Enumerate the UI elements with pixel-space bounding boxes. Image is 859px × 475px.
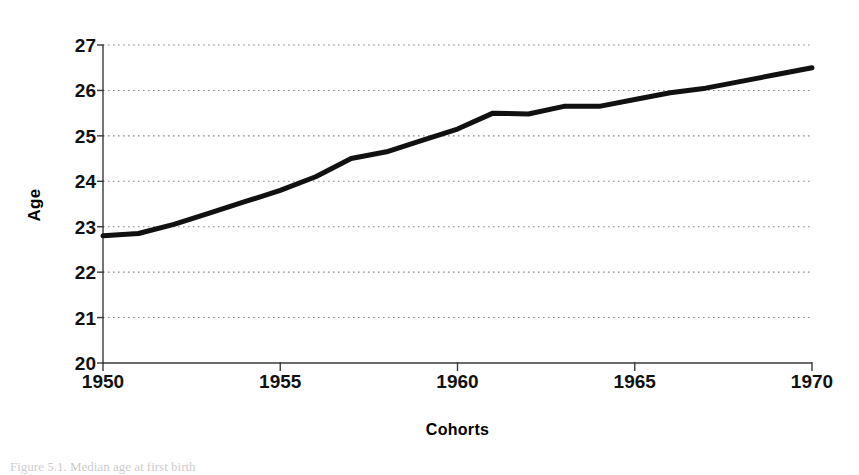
x-axis-title: Cohorts xyxy=(103,421,812,439)
x-tick-label: 1970 xyxy=(767,372,857,391)
data-series xyxy=(103,68,812,236)
x-tick-label: 1960 xyxy=(413,372,503,391)
x-tick-label: 1955 xyxy=(235,372,325,391)
figure-caption: Figure 5.1. Median age at first birth xyxy=(10,459,530,475)
x-tick-label: 1965 xyxy=(590,372,680,391)
axis-lines xyxy=(103,45,812,363)
x-tick-label: 1950 xyxy=(58,372,148,391)
